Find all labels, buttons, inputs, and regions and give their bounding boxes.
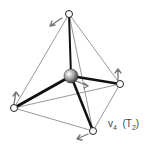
symmetry-open: (T [122, 118, 131, 129]
atom-bottom [90, 128, 97, 135]
atom-left [11, 105, 18, 112]
central-atom [64, 69, 78, 83]
atom-top [66, 11, 73, 18]
mode-label: v4 (T2) [108, 118, 139, 131]
mode-subscript: 4 [113, 124, 117, 131]
atom-right [117, 81, 124, 88]
symmetry-close: ) [136, 118, 139, 129]
